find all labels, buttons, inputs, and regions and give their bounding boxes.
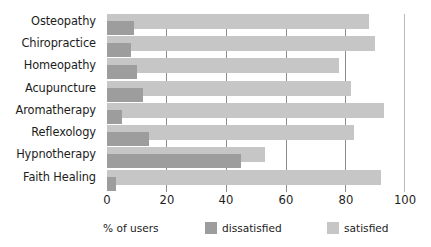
x-tick-label: 40 <box>206 192 246 208</box>
legend-swatch-icon <box>327 222 339 234</box>
bar-dissatisfied <box>107 65 137 79</box>
category-label: Aromatherapy <box>0 103 96 117</box>
legend-label: satisfied <box>344 221 389 236</box>
bar-satisfied <box>107 170 381 185</box>
bar-dissatisfied <box>107 88 143 102</box>
legend-label: dissatisfied <box>222 221 282 236</box>
bar-satisfied <box>107 58 339 73</box>
category-label: Reflexology <box>0 125 96 139</box>
plot-area <box>107 14 405 192</box>
category-label: Acupuncture <box>0 81 96 95</box>
category-label: Chiropractice <box>0 36 96 50</box>
x-tick-label: 80 <box>326 192 366 208</box>
bar-dissatisfied <box>107 132 149 146</box>
x-tick-label: 20 <box>147 192 187 208</box>
bar-dissatisfied <box>107 43 131 57</box>
x-tick-label: 60 <box>266 192 306 208</box>
x-axis-title: % of users <box>103 221 159 236</box>
bar-dissatisfied <box>107 21 134 35</box>
category-label: Osteopathy <box>0 14 96 28</box>
gridline-100 <box>404 14 405 192</box>
bar-dissatisfied <box>107 177 116 191</box>
category-label: Hypnotherapy <box>0 147 96 161</box>
x-axis: 0 20 40 60 80 100 <box>0 192 431 214</box>
bar-satisfied <box>107 103 384 118</box>
legend: % of users dissatisfied satisfied <box>0 221 431 241</box>
bar-chart: Osteopathy Chiropractice Homeopathy Acup… <box>0 0 431 247</box>
category-axis-labels: Osteopathy Chiropractice Homeopathy Acup… <box>0 14 96 192</box>
category-label: Faith Healing <box>0 170 96 184</box>
bar-satisfied <box>107 14 369 29</box>
x-tick-label: 0 <box>87 192 127 208</box>
bar-satisfied <box>107 36 375 51</box>
legend-swatch-icon <box>205 222 217 234</box>
bar-dissatisfied <box>107 110 122 124</box>
category-label: Homeopathy <box>0 58 96 72</box>
bar-satisfied <box>107 81 351 96</box>
x-tick-label: 100 <box>385 192 425 208</box>
bar-dissatisfied <box>107 154 241 168</box>
